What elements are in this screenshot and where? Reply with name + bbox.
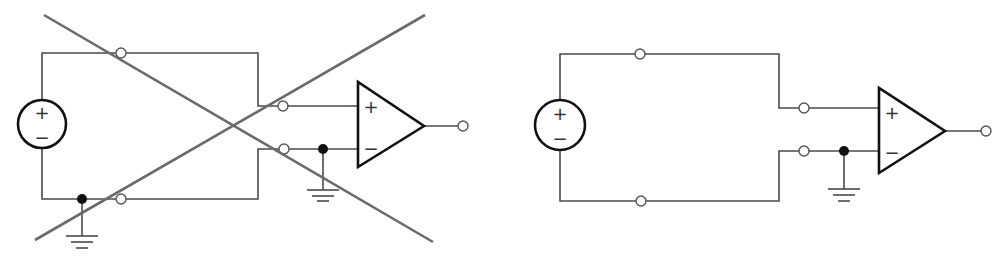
incorrect-circuit: + − + − [18, 15, 468, 248]
right-input-junction-dot [839, 146, 849, 156]
circuit-diagrams: + − + − [0, 0, 998, 269]
left-terminal-bottom [116, 194, 126, 204]
right-source-plus-sign: + [552, 103, 567, 124]
right-terminal-minus-input [799, 146, 809, 156]
left-input-junction-dot [318, 144, 328, 154]
left-opamp-ground-icon [307, 149, 339, 201]
right-top-wire [560, 54, 804, 108]
left-bottom-wire [42, 148, 284, 199]
left-source-minus-sign: − [34, 127, 49, 148]
right-bottom-wire [560, 150, 804, 201]
left-terminal-plus-input [278, 101, 288, 111]
right-source-minus-sign: − [552, 128, 567, 149]
cross-out-icon [35, 15, 433, 242]
correct-circuit: + − + − [535, 49, 991, 206]
right-voltage-source-icon: + − [535, 100, 585, 150]
left-terminal-output [458, 121, 468, 131]
right-terminal-output [981, 126, 991, 136]
right-opamp-plus-sign: + [884, 102, 899, 123]
right-terminal-bottom [636, 196, 646, 206]
right-terminal-top [635, 49, 645, 59]
right-opamp-minus-sign: − [884, 142, 899, 163]
left-opamp-plus-sign: + [363, 96, 378, 117]
left-top-wire [42, 53, 283, 106]
left-source-junction-dot [77, 194, 87, 204]
left-source-plus-sign: + [34, 102, 49, 123]
left-opamp-icon: + − [358, 82, 424, 167]
right-terminal-plus-input [799, 103, 809, 113]
right-opamp-ground-icon [828, 151, 860, 201]
right-opamp-icon: + − [879, 88, 945, 173]
left-opamp-minus-sign: − [363, 138, 378, 159]
left-voltage-source-icon: + − [18, 100, 66, 148]
